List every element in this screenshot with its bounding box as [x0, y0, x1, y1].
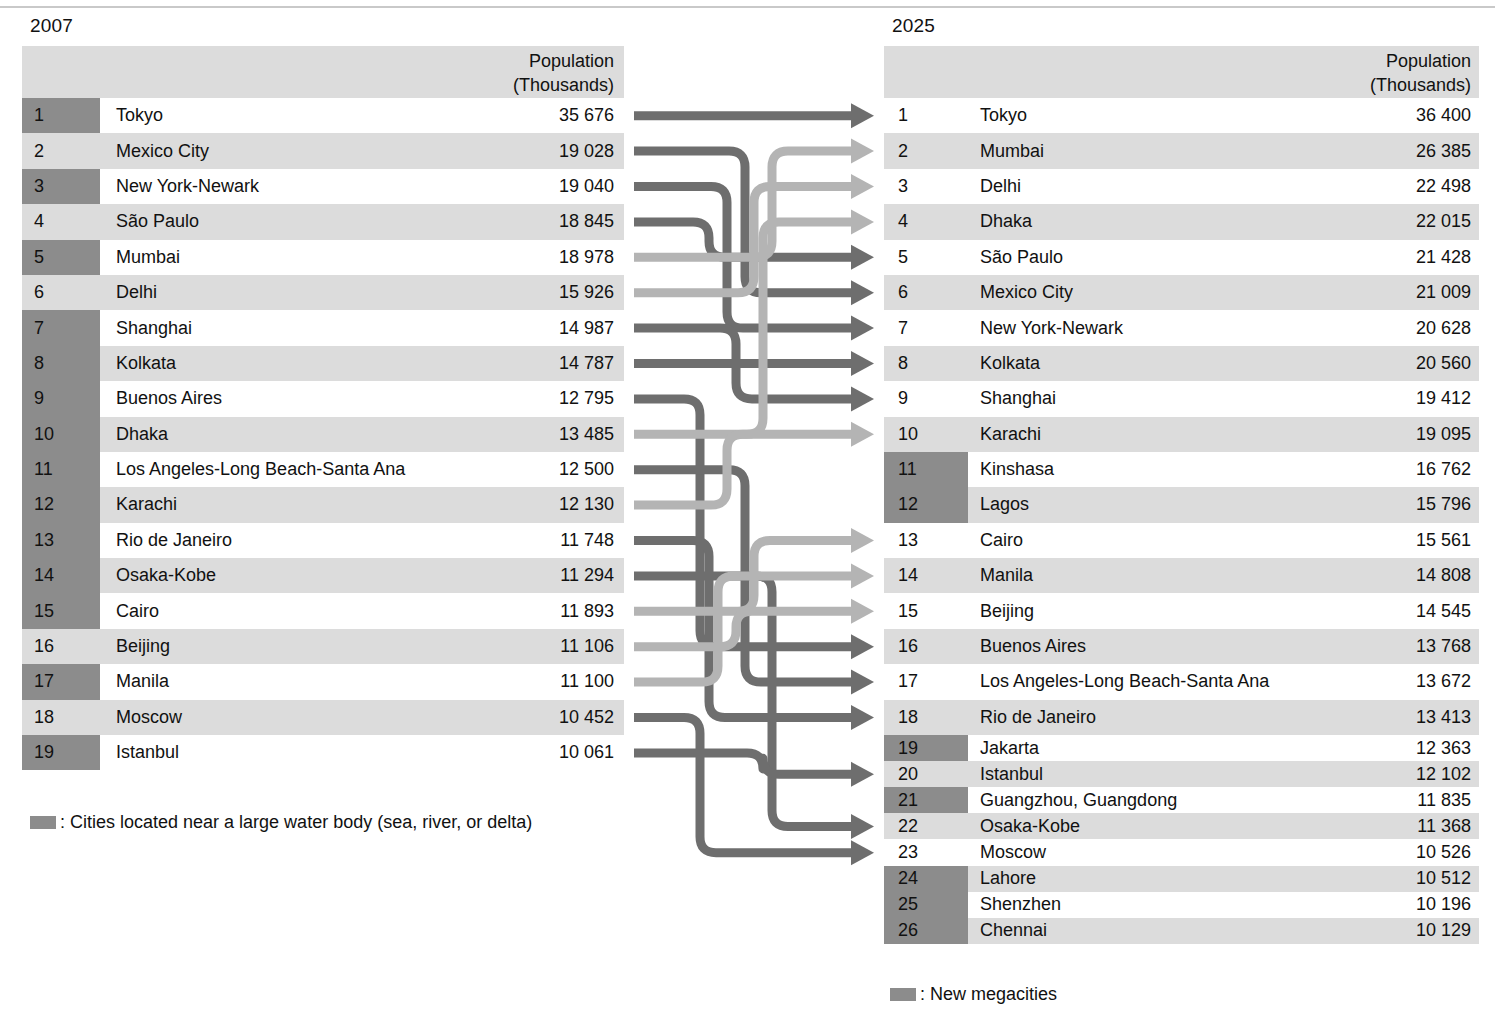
rank-value: 4	[898, 204, 908, 239]
table-row: 19Istanbul10 061	[22, 735, 624, 770]
table-row: 18Rio de Janeiro13 413	[884, 700, 1479, 735]
population-value: 18 845	[559, 204, 614, 239]
population-value: 15 796	[1416, 487, 1471, 522]
rank-badge	[884, 761, 968, 787]
table-row: 14Osaka-Kobe11 294	[22, 558, 624, 593]
flow-link	[634, 222, 874, 270]
flow-arrowhead-icon	[851, 422, 874, 447]
rank-badge	[884, 275, 968, 310]
flow-arrowhead-icon	[851, 840, 874, 865]
rank-value: 14	[898, 558, 918, 593]
flow-link	[634, 399, 874, 659]
rank-value: 13	[34, 523, 54, 558]
population-value: 12 130	[559, 487, 614, 522]
flow-link	[634, 151, 874, 305]
flow-arrowhead-icon	[851, 705, 874, 730]
flow-arrowhead-icon	[851, 599, 874, 624]
rank-badge	[884, 417, 968, 452]
rank-value: 12	[898, 487, 918, 522]
table-row: 16Beijing11 106	[22, 629, 624, 664]
table-row: 7Shanghai14 987	[22, 310, 624, 345]
rank-value: 3	[34, 169, 44, 204]
city-name: Los Angeles-Long Beach-Santa Ana	[980, 664, 1269, 699]
population-value: 12 102	[1416, 761, 1471, 787]
population-value: 20 560	[1416, 346, 1471, 381]
population-value: 19 095	[1416, 417, 1471, 452]
city-name: Osaka-Kobe	[980, 813, 1080, 839]
table-row: 9Buenos Aires12 795	[22, 381, 624, 416]
rank-value: 18	[34, 700, 54, 735]
flow-link	[634, 599, 874, 647]
city-name: Istanbul	[980, 761, 1043, 787]
population-value: 11 100	[560, 664, 614, 699]
flow-link	[634, 470, 874, 695]
flow-link	[634, 209, 874, 434]
flow-path	[634, 328, 852, 399]
rank-value: 5	[34, 240, 44, 275]
rank-value: 9	[898, 381, 908, 416]
population-header-line1: Population	[1370, 49, 1471, 73]
population-value: 11 294	[560, 558, 614, 593]
rank-value: 8	[34, 346, 44, 381]
city-name: Tokyo	[980, 98, 1027, 133]
flow-path	[634, 222, 852, 257]
table-row: 3New York-Newark19 040	[22, 169, 624, 204]
rank-value: 13	[898, 523, 918, 558]
city-name: Lahore	[980, 866, 1036, 892]
population-header-right: Population (Thousands)	[1370, 49, 1471, 97]
city-name: Manila	[980, 558, 1033, 593]
rank-value: 19	[898, 735, 918, 761]
rank-value: 7	[34, 310, 44, 345]
city-name: Karachi	[980, 417, 1041, 452]
rank-badge	[884, 169, 968, 204]
rank-badge	[884, 700, 968, 735]
rank-value: 23	[898, 839, 918, 865]
rank-badge	[884, 98, 968, 133]
city-name: Buenos Aires	[980, 629, 1086, 664]
city-name: Shanghai	[116, 310, 192, 345]
rank-value: 11	[34, 452, 53, 487]
table-row: 22Osaka-Kobe11 368	[884, 813, 1479, 839]
population-value: 22 015	[1416, 204, 1471, 239]
top-rule	[0, 6, 1495, 8]
table-row: 10Dhaka13 485	[22, 417, 624, 452]
rank-badge-highlighted	[884, 787, 968, 813]
rank-badge-highlighted	[884, 452, 968, 487]
rank-value: 15	[898, 593, 918, 628]
rank-value: 4	[34, 204, 44, 239]
table-row: 16Buenos Aires13 768	[884, 629, 1479, 664]
population-header-line1: Population	[513, 49, 614, 73]
population-value: 18 978	[559, 240, 614, 275]
population-value: 19 412	[1416, 381, 1471, 416]
flow-path	[634, 187, 852, 293]
rank-value: 18	[898, 700, 918, 735]
flow-link	[634, 422, 874, 505]
table-row: 23Moscow10 526	[884, 839, 1479, 865]
rank-value: 2	[898, 133, 908, 168]
rank-badge	[884, 204, 968, 239]
table-row: 11Kinshasa16 762	[884, 452, 1479, 487]
rank-value: 9	[34, 381, 44, 416]
flow-arrowhead-icon	[851, 528, 874, 553]
table-row: 13Rio de Janeiro11 748	[22, 523, 624, 558]
population-value: 14 545	[1416, 593, 1471, 628]
rank-value: 25	[898, 892, 918, 918]
table-row: 15Cairo11 893	[22, 593, 624, 628]
table-2025: Population (Thousands) 1Tokyo36 4002Mumb…	[884, 46, 1479, 944]
population-value: 36 400	[1416, 98, 1471, 133]
population-header-line2: (Thousands)	[1370, 73, 1471, 97]
rank-value: 17	[34, 664, 54, 699]
flow-path	[634, 222, 852, 434]
rank-value: 21	[898, 787, 918, 813]
city-name: Kinshasa	[980, 452, 1054, 487]
population-value: 10 061	[559, 735, 614, 770]
flow-path	[634, 611, 852, 646]
population-value: 10 526	[1416, 839, 1471, 865]
population-value: 12 363	[1416, 735, 1471, 761]
rank-value: 3	[898, 169, 908, 204]
table-row: 25Shenzhen10 196	[884, 892, 1479, 918]
rank-badge-highlighted	[884, 892, 968, 918]
rank-value: 14	[34, 558, 54, 593]
flow-link	[634, 187, 874, 341]
rank-badge-highlighted	[884, 487, 968, 522]
